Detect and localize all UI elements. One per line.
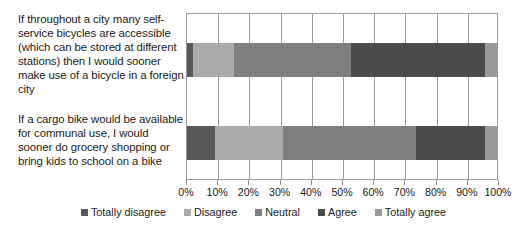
category-label-1: If a cargo bike would be availablefor co… <box>18 112 184 168</box>
bar-segment-agree <box>351 43 484 77</box>
legend-label: Totally agree <box>385 206 446 219</box>
bar-segment-agree <box>416 126 484 160</box>
category-label-line: for communal use, I would <box>18 126 184 140</box>
x-tick-label: 100% <box>478 185 518 199</box>
legend-label: Agree <box>328 206 357 219</box>
category-label-line: stations) then I would sooner <box>18 54 184 68</box>
legend-item[interactable]: Neutral <box>255 206 300 219</box>
plot-area <box>186 13 498 180</box>
category-label-line: make use of a bicycle in a foreign <box>18 68 184 82</box>
legend-item[interactable]: Totally disagree <box>81 206 166 219</box>
x-axis-labels: 0%10%20%30%40%50%60%70%80%90%100% <box>0 185 527 201</box>
chart-legend: Totally disagreeDisagreeNeutralAgreeTota… <box>0 206 527 219</box>
category-label-line: If throughout a city many self- <box>18 12 184 26</box>
bar-segment-neutral <box>234 43 352 77</box>
bar-segment-totally-agree <box>485 43 497 77</box>
bar-segment-neutral <box>283 126 416 160</box>
legend-item[interactable]: Totally agree <box>375 206 446 219</box>
bar-segment-totally-disagree <box>187 126 215 160</box>
category-label-line: bring kids to school on a bike <box>18 154 184 168</box>
category-label-line: city <box>18 82 184 96</box>
bar-segment-disagree <box>193 43 233 77</box>
category-label-0: If throughout a city many self-service b… <box>18 12 184 97</box>
legend-label: Neutral <box>265 206 300 219</box>
category-label-line: If a cargo bike would be available <box>18 112 184 126</box>
legend-swatch-icon <box>255 209 262 216</box>
legend-item[interactable]: Disagree <box>184 206 237 219</box>
bar-segment-totally-agree <box>485 126 497 160</box>
legend-swatch-icon <box>81 209 88 216</box>
legend-label: Disagree <box>194 206 237 219</box>
category-label-line: service bicycles are accessible <box>18 26 184 40</box>
table-row <box>187 43 497 77</box>
legend-item[interactable]: Agree <box>318 206 357 219</box>
legend-swatch-icon <box>318 209 325 216</box>
category-label-line: (which can be stored at different <box>18 40 184 54</box>
bars-layer <box>187 14 497 179</box>
bar-segment-disagree <box>215 126 283 160</box>
stacked-bar-chart: If throughout a city many self-service b… <box>0 0 527 236</box>
legend-label: Totally disagree <box>91 206 166 219</box>
category-label-line: sooner do grocery shopping or <box>18 140 184 154</box>
legend-swatch-icon <box>184 209 191 216</box>
table-row <box>187 126 497 160</box>
legend-swatch-icon <box>375 209 382 216</box>
